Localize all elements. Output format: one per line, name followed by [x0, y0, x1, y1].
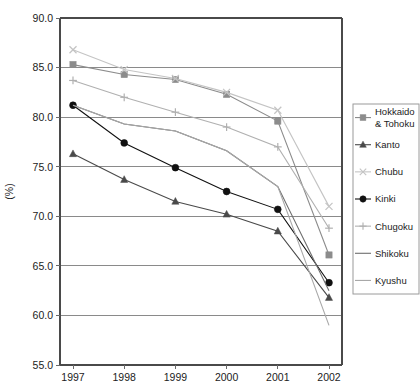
data-point-marker — [69, 150, 76, 157]
data-point-marker — [325, 224, 333, 232]
y-axis-tick-label: 80.0 — [33, 111, 54, 123]
series-line — [73, 154, 329, 298]
data-point-marker — [274, 143, 282, 151]
legend-label: Chugoku — [375, 221, 413, 232]
data-point-marker — [70, 46, 77, 53]
legend-label: Chubu — [375, 166, 403, 177]
gridlines-group — [60, 18, 342, 315]
y-axis-tick-label: 55.0 — [33, 359, 54, 371]
y-axis-title: (%) — [3, 183, 15, 199]
x-axis-ticks: 199719981999200020012002 — [61, 365, 341, 383]
legend-label: Kanto — [375, 139, 400, 150]
data-point-marker — [172, 108, 180, 116]
legend-label: Shikoku — [375, 248, 409, 259]
data-point-marker — [360, 115, 366, 121]
data-point-marker — [121, 140, 128, 147]
data-point-marker — [70, 61, 76, 67]
data-point-marker — [172, 164, 179, 171]
y-axis-tick-label: 75.0 — [33, 161, 54, 173]
y-axis-title-label: (%) — [3, 183, 15, 199]
series-line — [73, 105, 329, 282]
y-axis-tick-label: 90.0 — [33, 12, 54, 24]
series-line — [73, 105, 329, 325]
series-line — [73, 50, 329, 207]
data-point-marker — [274, 206, 281, 213]
legend-label: Kinki — [375, 193, 396, 204]
x-axis-tick-label: 2002 — [317, 371, 341, 383]
data-point-marker — [223, 123, 231, 131]
series-chubu — [70, 46, 333, 210]
legend-label: Kyushu — [375, 275, 407, 286]
chart-canvas: 55.060.065.070.075.080.085.090.0 1997199… — [0, 0, 420, 390]
legend-label: Hokkaido — [375, 106, 415, 117]
data-point-marker — [326, 203, 333, 210]
data-point-marker — [274, 107, 281, 114]
legend-label-line2: & Tohoku — [375, 118, 414, 129]
series-kyushu — [73, 105, 329, 325]
data-point-marker — [69, 77, 77, 85]
y-axis-tick-label: 60.0 — [33, 309, 54, 321]
data-point-marker — [120, 93, 128, 101]
y-axis-ticks: 55.060.065.070.075.080.085.090.0 — [33, 12, 60, 371]
y-axis-tick-label: 85.0 — [33, 61, 54, 73]
series-kinki — [70, 102, 333, 286]
data-point-marker — [121, 176, 128, 183]
line-chart-figure: 55.060.065.070.075.080.085.090.0 1997199… — [0, 0, 420, 390]
legend: Hokkaido& TohokuKantoChubuKinkiChugokuSh… — [353, 104, 419, 294]
data-point-marker — [275, 118, 281, 124]
x-axis-tick-label: 1998 — [113, 371, 137, 383]
y-axis-tick-label: 70.0 — [33, 210, 54, 222]
y-axis-tick-label: 65.0 — [33, 260, 54, 272]
data-point-marker — [223, 188, 230, 195]
data-series-group — [69, 46, 333, 325]
series-kanto — [69, 150, 332, 300]
x-axis-tick-label: 1997 — [61, 371, 85, 383]
series-chugoku — [69, 77, 333, 233]
x-axis-tick-label: 2000 — [215, 371, 239, 383]
x-axis-tick-label: 1999 — [164, 371, 188, 383]
x-axis-tick-label: 2001 — [266, 371, 290, 383]
data-point-marker — [326, 252, 332, 258]
data-point-marker — [360, 196, 366, 202]
